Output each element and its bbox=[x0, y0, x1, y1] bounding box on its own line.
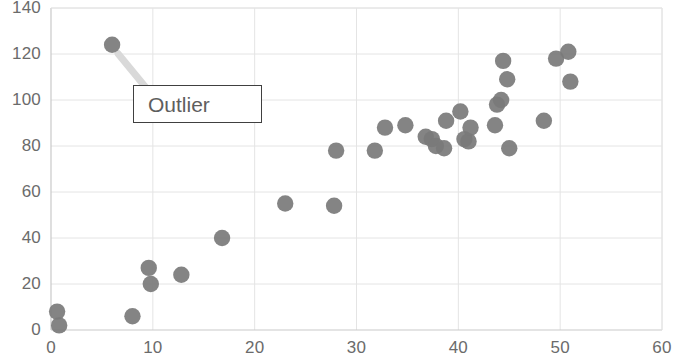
y-tick-label: 40 bbox=[0, 229, 41, 246]
x-tick-label: 60 bbox=[632, 339, 673, 356]
x-tick-label: 30 bbox=[327, 339, 387, 356]
y-tick-label: 120 bbox=[0, 45, 41, 62]
outlier-callout-box[interactable]: Outlier bbox=[133, 85, 262, 123]
y-tick-label: 60 bbox=[0, 183, 41, 200]
data-points bbox=[49, 37, 579, 334]
x-tick-label: 50 bbox=[530, 339, 590, 356]
x-tick-label: 20 bbox=[225, 339, 285, 356]
outlier-callout-label: Outlier bbox=[134, 86, 263, 124]
x-tick-label: 10 bbox=[123, 339, 183, 356]
x-tick-label: 0 bbox=[21, 339, 81, 356]
scatter-chart: 020406080100120140 0102030405060 Outlier bbox=[0, 0, 673, 363]
y-tick-label: 20 bbox=[0, 275, 41, 292]
y-tick-label: 0 bbox=[0, 321, 41, 338]
y-tick-label: 80 bbox=[0, 137, 41, 154]
y-tick-label: 100 bbox=[0, 91, 41, 108]
x-tick-label: 40 bbox=[428, 339, 488, 356]
plot-area bbox=[0, 0, 673, 363]
y-tick-label: 140 bbox=[0, 0, 41, 16]
